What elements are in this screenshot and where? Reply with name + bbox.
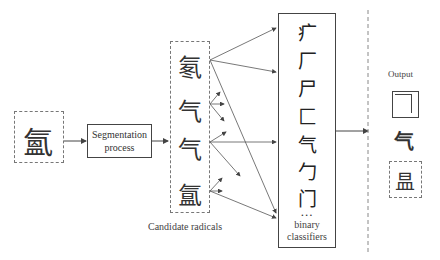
segmentation-process-box: Segmentation process xyxy=(87,124,152,158)
classifier-radical-2: 厂 xyxy=(279,46,335,73)
classifier-radical-3: 尸 xyxy=(279,74,335,101)
binary-classifiers-box: 疒 厂 尸 匚 气 勹 门 ... binary classifiers xyxy=(278,13,336,248)
structure-icon xyxy=(392,91,419,118)
output-remainder: 昷 xyxy=(395,166,415,195)
candidate-radical-2: 气 xyxy=(178,92,202,127)
classifier-ellipsis: ... xyxy=(279,204,335,220)
input-character: 氳 xyxy=(23,118,53,162)
candidate-radical-1: 氡 xyxy=(178,48,202,83)
classifier-radical-5: 气 xyxy=(279,130,335,157)
candidate-radicals-label: Candidate radicals xyxy=(148,221,222,232)
classifier-radical-6: 勹 xyxy=(279,157,335,184)
output-title: Output xyxy=(388,69,413,79)
output-radical: 气 xyxy=(394,126,414,155)
classifier-radical-4: 匚 xyxy=(279,102,335,129)
input-character-box: 氳 xyxy=(14,111,64,163)
output-remainder-box: 昷 xyxy=(389,161,422,198)
classifier-label-line2: classifiers xyxy=(279,231,335,242)
candidate-radical-3: 气 xyxy=(178,130,202,165)
candidate-radicals-box: 氡 气 气 氲 xyxy=(170,41,210,213)
segmentation-label-line1: Segmentation xyxy=(88,128,151,141)
classifier-label-line1: binary xyxy=(279,219,335,230)
segmentation-label-line2: process xyxy=(88,141,151,154)
classifier-radical-1: 疒 xyxy=(279,18,335,45)
candidate-radical-4: 氲 xyxy=(178,176,202,211)
